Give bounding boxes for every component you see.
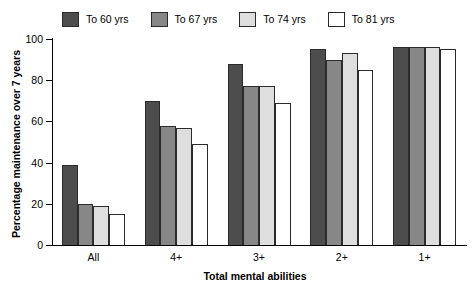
x-tick-label: 4+ [145, 251, 208, 263]
y-tick-mark [46, 80, 52, 81]
y-tick-mark [46, 204, 52, 205]
bar [176, 128, 192, 245]
legend-swatch-to-67-yrs [151, 12, 168, 27]
bar [93, 206, 109, 245]
bar [425, 47, 441, 245]
y-axis-title: Percentage maintenance over 7 years [10, 37, 22, 252]
bar-group: 2+ [310, 39, 373, 245]
y-tick-label: 40 [31, 157, 43, 169]
bar [243, 86, 259, 245]
x-axis-line [52, 245, 467, 246]
plot-area: 020406080100 All4+3+2+1+ [52, 39, 466, 245]
bar [326, 60, 342, 245]
bar [393, 47, 409, 245]
legend-item-to-81-yrs: To 81 yrs [328, 12, 395, 27]
bar [259, 86, 275, 245]
chart-legend: To 60 yrs To 67 yrs To 74 yrs To 81 yrs [62, 8, 466, 30]
bar [310, 49, 326, 245]
legend-item-to-67-yrs: To 67 yrs [151, 12, 218, 27]
y-tick-mark [46, 245, 52, 246]
legend-label-to-67-yrs: To 67 yrs [175, 14, 218, 25]
y-tick-label: 100 [25, 33, 43, 45]
x-tick-label: 3+ [228, 251, 291, 263]
bar [275, 103, 291, 245]
legend-swatch-to-60-yrs [62, 12, 79, 27]
y-tick-mark [46, 39, 52, 40]
x-tick-label: 1+ [393, 251, 456, 263]
y-tick-label: 60 [31, 115, 43, 127]
bar [109, 214, 125, 245]
bar-group-bars [62, 39, 125, 245]
bar [145, 101, 161, 245]
legend-swatch-to-81-yrs [328, 12, 345, 27]
bar [342, 53, 358, 245]
bar [228, 64, 244, 245]
bar [358, 70, 374, 245]
bar-chart-figure: To 60 yrs To 67 yrs To 74 yrs To 81 yrs … [0, 0, 475, 290]
bar-group-bars [393, 39, 456, 245]
bar-group: All [62, 39, 125, 245]
bar [192, 144, 208, 245]
bar [440, 49, 456, 245]
legend-label-to-81-yrs: To 81 yrs [352, 14, 395, 25]
x-axis-title: Total mental abilities [40, 270, 470, 282]
y-tick-mark [46, 121, 52, 122]
y-tick-label: 20 [31, 198, 43, 210]
legend-item-to-60-yrs: To 60 yrs [62, 12, 129, 27]
bar-group: 4+ [145, 39, 208, 245]
bar-group-bars [228, 39, 291, 245]
legend-item-to-74-yrs: To 74 yrs [239, 12, 306, 27]
bar [409, 47, 425, 245]
legend-label-to-60-yrs: To 60 yrs [86, 14, 129, 25]
y-tick-mark [46, 163, 52, 164]
bar [78, 204, 94, 245]
x-tick-label: 2+ [310, 251, 373, 263]
bar [160, 126, 176, 245]
legend-swatch-to-74-yrs [239, 12, 256, 27]
bar [62, 165, 78, 245]
y-tick-label: 80 [31, 74, 43, 86]
bar-group: 1+ [393, 39, 456, 245]
y-tick-label: 0 [37, 239, 43, 251]
x-tick-label: All [62, 251, 125, 263]
legend-label-to-74-yrs: To 74 yrs [263, 14, 306, 25]
bar-group: 3+ [228, 39, 291, 245]
bar-group-bars [310, 39, 373, 245]
bar-group-bars [145, 39, 208, 245]
